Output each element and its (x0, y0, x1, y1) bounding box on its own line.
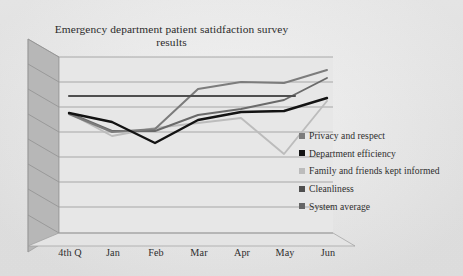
x-tick-label: 4th Q (58, 247, 81, 258)
legend-label: Privacy and respect (309, 130, 385, 141)
legend-item-family-and-friends-kept-informed[interactable]: Family and friends kept informed (299, 162, 459, 180)
chart-screenshot: Emergency department patient satidfactio… (0, 0, 463, 276)
legend-swatch-icon (299, 133, 305, 139)
chart-floor (28, 233, 355, 246)
legend-swatch-icon (299, 150, 305, 156)
legend-item-system-average[interactable]: System average (299, 197, 459, 215)
legend-label: System average (309, 201, 370, 212)
chart-title: Emergency department patient satidfactio… (44, 23, 299, 49)
x-tick-label: Feb (148, 247, 164, 258)
legend-label: Family and friends kept informed (309, 165, 440, 176)
legend-item-department-efficiency[interactable]: Department efficiency (299, 145, 459, 163)
legend-item-cleanliness[interactable]: Cleanliness (299, 180, 459, 198)
chart-legend: Privacy and respect Department efficienc… (299, 127, 459, 215)
legend-label: Cleanliness (309, 183, 354, 194)
chart-side-wall (28, 39, 59, 252)
x-tick-label: Mar (190, 247, 207, 258)
legend-swatch-icon (299, 168, 305, 174)
legend-swatch-icon (299, 203, 305, 209)
x-tick-label: Apr (234, 247, 250, 258)
x-tick-label: Jun (321, 247, 335, 258)
x-axis-labels: 4th Q Jan Feb Mar Apr May Jun (0, 247, 463, 265)
x-tick-label: May (276, 247, 295, 258)
legend-label: Department efficiency (309, 148, 396, 159)
x-tick-label: Jan (106, 247, 120, 258)
legend-item-privacy-and-respect[interactable]: Privacy and respect (299, 127, 459, 145)
legend-swatch-icon (299, 186, 305, 192)
